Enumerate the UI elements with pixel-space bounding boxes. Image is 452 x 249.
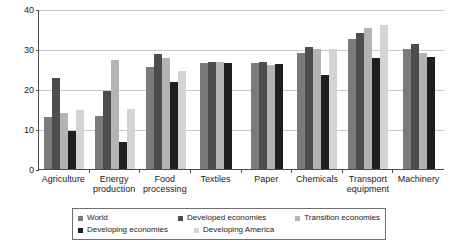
x-axis-tick-mark	[139, 169, 140, 173]
bar	[321, 75, 329, 169]
legend-label-world: World	[87, 212, 108, 224]
y-axis-tick-label: 30	[24, 46, 34, 55]
x-axis-label: Textiles	[190, 174, 241, 194]
bar-group	[191, 10, 242, 169]
x-axis-labels: AgricultureEnergy productionFood process…	[38, 174, 444, 194]
y-axis-tick-label: 40	[24, 6, 34, 15]
x-axis-label: Machinery	[393, 174, 444, 194]
x-axis-label: Agriculture	[38, 174, 89, 194]
bar	[403, 49, 411, 169]
bar	[356, 33, 364, 169]
bar	[111, 60, 119, 169]
bar	[305, 47, 313, 169]
bar	[329, 49, 337, 169]
bar-group	[393, 10, 444, 169]
bar-group	[90, 10, 141, 169]
legend-swatch-transition-economies	[295, 216, 300, 221]
legend-item-transition-economies: Transition economies	[295, 212, 380, 224]
bar	[259, 62, 267, 169]
bar-group	[292, 10, 343, 169]
legend-label-developing-economies: Developing economies	[87, 224, 168, 236]
bar-groups	[39, 10, 444, 169]
bar	[68, 131, 76, 169]
x-axis-tick-mark	[291, 169, 292, 173]
legend-item-world: World	[78, 212, 178, 224]
chart-legend: World Developed economies Transition eco…	[72, 208, 386, 240]
bar	[419, 53, 427, 169]
bar	[44, 117, 52, 169]
bar	[119, 142, 127, 169]
bar-group	[140, 10, 191, 169]
x-axis-label: Energy production	[89, 174, 140, 194]
bar-group	[39, 10, 90, 169]
legend-label-developed-economies: Developed economies	[187, 212, 266, 224]
y-axis-tick-label: 0	[29, 166, 34, 175]
x-axis-tick-mark	[392, 169, 393, 173]
legend-swatch-developing-economies	[78, 228, 83, 233]
bar	[95, 116, 103, 169]
bar	[146, 67, 154, 169]
bar	[364, 28, 372, 169]
bar	[76, 110, 84, 169]
legend-row: World Developed economies Transition eco…	[78, 212, 380, 224]
bar	[154, 54, 162, 169]
x-axis-label: Chemicals	[292, 174, 343, 194]
legend-label-transition-economies: Transition economies	[304, 212, 380, 224]
bar-chart: 010203040 AgricultureEnergy productionFo…	[0, 0, 452, 249]
y-axis-tick-label: 10	[24, 126, 34, 135]
x-axis-label: Transport equipment	[343, 174, 394, 194]
bar	[348, 39, 356, 169]
legend-item-developed-economies: Developed economies	[178, 212, 295, 224]
x-axis-tick-mark	[342, 169, 343, 173]
x-axis-tick-mark	[89, 169, 90, 173]
bar	[52, 78, 60, 169]
bar	[380, 25, 388, 169]
bar	[178, 71, 186, 169]
bar	[275, 64, 283, 169]
x-axis-tick-mark	[190, 169, 191, 173]
bar	[200, 63, 208, 169]
bar	[297, 53, 305, 169]
bar	[427, 57, 435, 169]
x-axis-tick-mark	[241, 169, 242, 173]
bar	[411, 44, 419, 169]
bar	[103, 91, 111, 169]
bar	[372, 58, 380, 169]
bar	[313, 49, 321, 169]
bar	[224, 63, 232, 169]
bar	[162, 58, 170, 169]
legend-swatch-developed-economies	[178, 216, 183, 221]
x-axis-label: Paper	[241, 174, 292, 194]
legend-swatch-developing-america	[194, 228, 199, 233]
bar	[127, 109, 135, 169]
legend-swatch-world	[78, 216, 83, 221]
plot-area: 010203040	[38, 10, 444, 170]
bar	[208, 62, 216, 169]
bar-group	[343, 10, 394, 169]
legend-item-developing-america: Developing America	[194, 224, 274, 236]
bar	[60, 113, 68, 169]
legend-label-developing-america: Developing America	[203, 224, 274, 236]
bar	[251, 63, 259, 169]
y-axis-tick-label: 20	[24, 86, 34, 95]
legend-row: Developing economies Developing America	[78, 224, 380, 236]
x-axis-label: Food processing	[140, 174, 191, 194]
y-axis-tick-mark	[36, 170, 39, 171]
legend-item-developing-economies: Developing economies	[78, 224, 194, 236]
bar-group	[242, 10, 293, 169]
bar	[267, 65, 275, 169]
bar	[216, 62, 224, 169]
bar	[170, 82, 178, 169]
